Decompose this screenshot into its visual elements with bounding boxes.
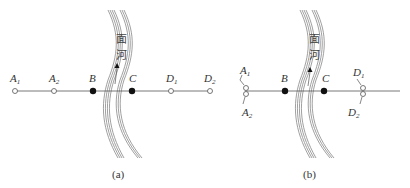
- point-d2: [361, 92, 366, 97]
- label-d2: D2: [203, 72, 216, 86]
- label-c: C: [322, 72, 330, 84]
- river-crossing-diagram: 面 河 A1 A2 B C D1 D2 (a): [0, 0, 410, 188]
- leader-a1: [240, 75, 244, 85]
- label-b: B: [89, 72, 96, 84]
- river-label-top: 面: [309, 33, 320, 46]
- point-d2: [208, 89, 213, 94]
- river-label-bottom: 河: [116, 49, 127, 62]
- label-d2: D2: [347, 106, 360, 120]
- caption-b: (b): [303, 168, 316, 181]
- point-c: [129, 88, 135, 94]
- river-label-top: 面: [116, 33, 127, 46]
- panel-a: 面 河 A1 A2 B C D1 D2 (a): [9, 10, 216, 181]
- point-a2: [244, 92, 249, 97]
- label-d1: D1: [165, 72, 177, 86]
- panel-b: 面 河 A1 A2 B C D1 D2 (b): [239, 10, 400, 181]
- point-d1: [361, 86, 366, 91]
- leader-a2: [243, 97, 245, 104]
- point-a1: [13, 89, 18, 94]
- point-a1: [244, 86, 249, 91]
- label-a1: A1: [239, 64, 250, 78]
- label-b: B: [281, 72, 288, 84]
- point-b: [282, 88, 288, 94]
- river-label-bottom: 河: [309, 49, 320, 62]
- point-a2: [52, 89, 57, 94]
- flow-arrow-icon: [308, 67, 313, 86]
- caption-a: (a): [112, 168, 125, 181]
- leader-d2: [360, 97, 362, 104]
- label-a1: A1: [9, 72, 20, 86]
- point-c: [321, 88, 327, 94]
- label-a2: A2: [241, 106, 253, 120]
- label-c: C: [129, 72, 137, 84]
- label-a2: A2: [48, 72, 60, 86]
- point-b: [90, 88, 96, 94]
- label-d1: D1: [352, 66, 364, 80]
- point-d1: [169, 89, 174, 94]
